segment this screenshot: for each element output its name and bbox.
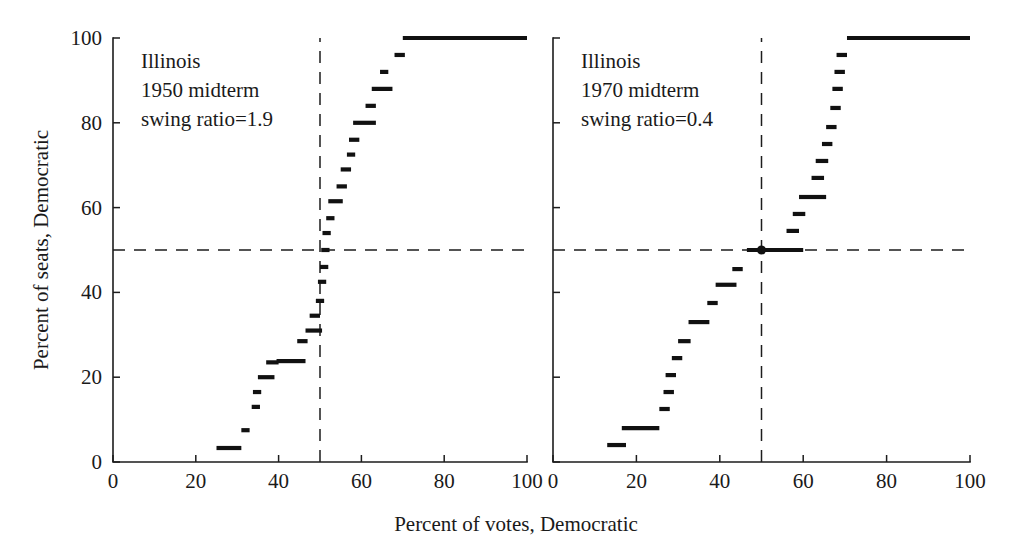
crossing-point-marker — [757, 245, 766, 254]
y-tick-label: 60 — [81, 196, 102, 220]
figure-root: 020406080100020406080100Illinois1950 mid… — [0, 0, 1032, 556]
x-tick-label: 100 — [954, 469, 986, 493]
x-tick-label: 60 — [351, 469, 372, 493]
annotation-line-2: swing ratio=1.9 — [141, 107, 273, 131]
annotation-line-1: 1950 midterm — [141, 78, 259, 102]
y-tick-label: 80 — [81, 111, 102, 135]
x-tick-label: 0 — [548, 469, 559, 493]
x-tick-label: 20 — [626, 469, 647, 493]
y-tick-label: 0 — [92, 450, 103, 474]
y-tick-label: 20 — [81, 365, 102, 389]
y-axis-title: Percent of seats, Democratic — [29, 130, 53, 370]
y-tick-label: 40 — [81, 280, 102, 304]
x-tick-label: 0 — [108, 469, 119, 493]
annotation-line-2: swing ratio=0.4 — [581, 107, 713, 131]
x-tick-label: 40 — [268, 469, 289, 493]
x-axis-title: Percent of votes, Democratic — [394, 512, 638, 536]
dual-panel-step-chart: 020406080100020406080100Illinois1950 mid… — [0, 0, 1032, 556]
x-tick-label: 80 — [434, 469, 455, 493]
x-tick-label: 80 — [876, 469, 897, 493]
x-tick-label: 20 — [185, 469, 206, 493]
x-tick-label: 100 — [511, 469, 543, 493]
annotation-line-1: 1970 midterm — [581, 78, 699, 102]
panel-right-1970: 020406080100Illinois1970 midtermswing ra… — [548, 38, 986, 493]
x-tick-label: 40 — [709, 469, 730, 493]
annotation-line-0: Illinois — [581, 49, 641, 73]
x-tick-label: 60 — [793, 469, 814, 493]
panel-left-1950: 020406080100020406080100Illinois1950 mid… — [71, 26, 543, 493]
y-tick-label: 100 — [71, 26, 103, 50]
annotation-line-0: Illinois — [141, 49, 201, 73]
